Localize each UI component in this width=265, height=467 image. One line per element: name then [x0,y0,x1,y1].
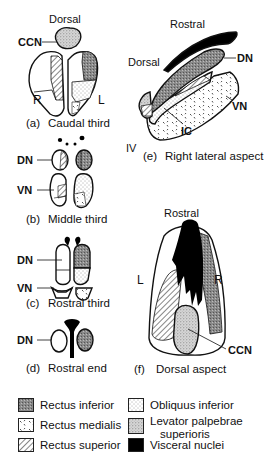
panel-b-vn-label: VN [17,184,32,196]
panel-c-drawing [52,237,92,300]
panel-b-drawing [50,136,93,208]
panel-c-dn-label: DN [17,254,33,266]
panel-b-dn-label: DN [17,154,33,166]
panel-a-title: Caudal third [48,117,110,129]
panel-d-dn-label: DN [17,334,33,346]
panel-c-caption: (c)Rostral third [26,297,110,310]
panel-c-letter: (c) [26,297,48,310]
panel-e-dn-label: DN [237,52,253,64]
panel-a-r-label: R [33,94,42,106]
panel-f-title: Dorsal aspect [156,363,226,375]
panel-b-caption: (b)Middle third [26,213,107,226]
panel-a-l-label: L [98,94,105,106]
panel-d-letter: (d) [26,362,48,375]
panel-e-rostral-label: Rostral [170,18,205,30]
panel-a-ccn-label: CCN [18,36,42,48]
panel-f-ccn-label: CCN [228,344,252,356]
panel-b-title: Middle third [48,213,107,225]
visceral-nuclei-swatch-icon [128,438,144,452]
panel-e-dorsal-label: Dorsal [128,56,160,68]
panel-d-caption: (d)Rostral end [26,362,107,375]
levator-palpebrae-swatch-icon [128,418,144,434]
rectus-superior-swatch-icon [18,438,34,452]
panel-e-drawing [139,32,238,140]
panel-e-caption: (e)Right lateral aspect [143,150,263,163]
panel-f-r-label: R [214,274,223,286]
panel-d-title: Rostral end [48,362,107,374]
panel-f-rostral-label: Rostral [164,207,199,219]
panel-c-vn-label: VN [17,282,32,294]
panel-f-drawing [149,220,225,356]
panel-a-caption: (a)Caudal third [26,117,110,130]
panel-f-l-label: L [137,274,144,286]
panel-b-letter: (b) [26,213,48,226]
panel-d-drawing [51,319,93,358]
panel-e-title: Right lateral aspect [165,150,263,162]
panel-c-title: Rostral third [48,297,110,309]
rectus-medialis-swatch-icon [18,418,34,432]
panel-e-iv-label: IV [126,142,136,154]
panel-f-letter: (f) [134,363,156,376]
panel-f-caption: (f)Dorsal aspect [134,363,226,376]
panel-e-vn-label: VN [232,100,247,112]
panel-a-dorsal-label: Dorsal [49,13,81,25]
rectus-inferior-swatch-icon [18,398,34,412]
panel-e-ic-label: IC [181,125,192,137]
panel-e-letter: (e) [143,150,165,163]
obliquus-inferior-swatch-icon [128,398,144,412]
diagram-canvas [0,0,265,467]
panel-a-letter: (a) [26,117,48,130]
